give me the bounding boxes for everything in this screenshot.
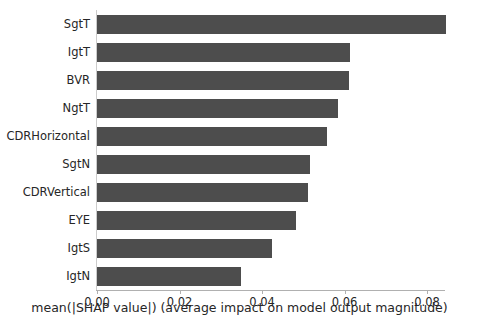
bar-row	[97, 94, 427, 122]
shap-feature-importance-chart: SgtTIgtTBVRNgtTCDRHorizontalSgtNCDRVerti…	[0, 0, 479, 331]
bar	[97, 99, 338, 118]
bar-row	[97, 206, 427, 234]
x-tick-mark	[97, 290, 98, 294]
x-tick-mark	[262, 290, 263, 294]
y-tick-label: NgtT	[63, 94, 90, 122]
y-tick-label: CDRHorizontal	[6, 122, 90, 150]
bar	[97, 127, 327, 146]
bar-row	[97, 262, 427, 290]
bar	[97, 43, 350, 62]
y-axis-tick-labels: SgtTIgtTBVRNgtTCDRHorizontalSgtNCDRVerti…	[0, 10, 90, 290]
y-tick-label: CDRVertical	[23, 178, 90, 206]
bar	[97, 267, 241, 286]
x-tick-mark	[427, 290, 428, 294]
y-tick-label: IgtT	[68, 38, 90, 66]
x-axis-title: mean(|SHAP value|) (average impact on mo…	[0, 300, 479, 315]
y-tick-label: EYE	[68, 206, 90, 234]
plot-area	[97, 10, 427, 290]
x-tick-mark	[180, 290, 181, 294]
bar-row	[97, 122, 427, 150]
y-tick-label: SgtN	[62, 150, 90, 178]
bar-row	[97, 10, 427, 38]
bar-row	[97, 66, 427, 94]
x-tick-mark	[345, 290, 346, 294]
y-tick-label: BVR	[67, 66, 90, 94]
bar	[97, 155, 310, 174]
bar	[97, 71, 349, 90]
bar-row	[97, 38, 427, 66]
bar-row	[97, 234, 427, 262]
bar	[97, 211, 296, 230]
bar	[97, 239, 272, 258]
y-tick-label: IgtN	[66, 262, 90, 290]
y-tick-label: IgtS	[67, 234, 90, 262]
bar	[97, 15, 446, 34]
bar-row	[97, 178, 427, 206]
y-tick-label: SgtT	[64, 10, 90, 38]
bar	[97, 183, 308, 202]
bar-row	[97, 150, 427, 178]
